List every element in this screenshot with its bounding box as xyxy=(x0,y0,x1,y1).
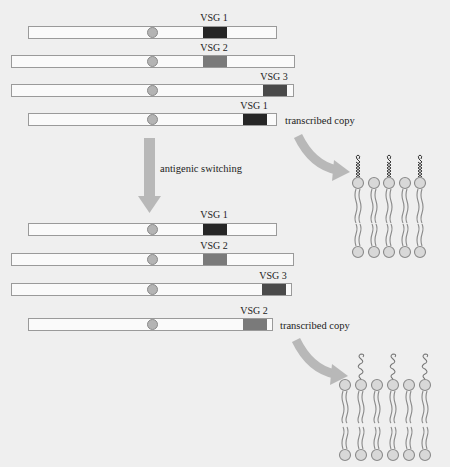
antigenic-switching-diagram: VSG 1 VSG 2 VSG 3 VSG 1 transcribed copy… xyxy=(0,0,450,467)
lipid-tails-bottom xyxy=(355,224,423,246)
curved-arrow-icon xyxy=(296,340,348,385)
vsg2-protein-icons xyxy=(358,354,427,379)
lipid-heads xyxy=(340,380,431,461)
lipid-tails-bottom xyxy=(342,427,428,449)
membrane-vsg2 xyxy=(340,354,431,461)
lipid-tails-top xyxy=(355,189,423,223)
membrane-vsg1 xyxy=(353,155,426,258)
arrows-and-membranes xyxy=(0,0,450,467)
vsg1-protein-icons xyxy=(356,155,422,177)
lipid-heads xyxy=(353,178,426,258)
curved-arrow-icon xyxy=(298,136,350,181)
lipid-tails-top xyxy=(342,391,428,423)
down-arrow-icon xyxy=(138,138,161,213)
